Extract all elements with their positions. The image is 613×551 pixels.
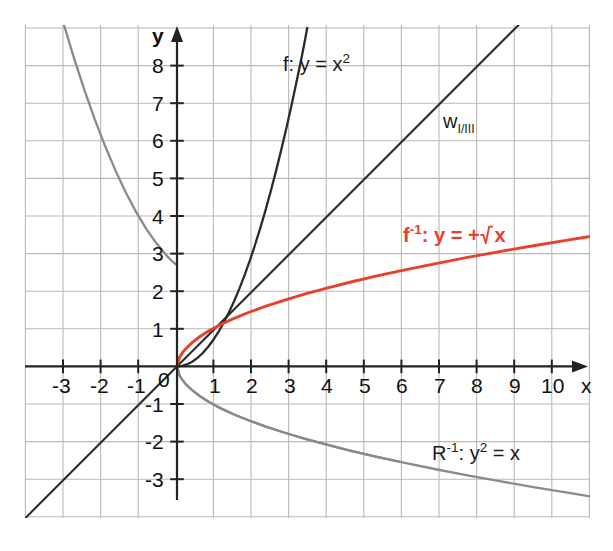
x-tick-label-10: 10	[541, 374, 564, 398]
graph-canvas	[0, 0, 613, 551]
origin-label: 0	[158, 368, 170, 392]
label-parabola: f: y = x2	[283, 51, 350, 76]
x-axis-arrow	[572, 360, 588, 372]
label-bisector-base: w	[443, 110, 457, 132]
label-parabola-text: f: y = x	[283, 53, 342, 75]
curve-sqrt	[177, 237, 590, 367]
y-tick-label-4: 4	[152, 205, 164, 229]
x-tick-label--2: -2	[90, 374, 109, 398]
x-tick-label--1: -1	[127, 374, 146, 398]
label-relation: R-1: y2 = x	[432, 440, 520, 465]
x-tick-label-8: 8	[471, 374, 483, 398]
label-relation-rest: = x	[487, 442, 520, 464]
y-axis-label: y	[152, 24, 164, 48]
x-tick-label-4: 4	[321, 374, 333, 398]
x-tick-label--3: -3	[52, 374, 71, 398]
label-relation-mid: : y	[459, 442, 480, 464]
label-sqrt-rest: : y = +	[422, 224, 480, 246]
y-tick-label--3: -3	[145, 468, 164, 492]
y-tick-label--2: -2	[145, 430, 164, 454]
x-tick-label-7: 7	[434, 374, 446, 398]
y-tick-label-1: 1	[152, 318, 164, 342]
x-tick-label-2: 2	[246, 374, 258, 398]
label-sqrt: f-1: y = + x	[403, 222, 506, 247]
y-tick-label-7: 7	[152, 92, 164, 116]
sqrt-radical-icon	[480, 224, 495, 247]
label-relation-exponent: -1	[446, 440, 458, 455]
axes	[25, 36, 578, 500]
x-tick-label-9: 9	[509, 374, 521, 398]
curve-sqrt-negative-branch	[177, 366, 590, 496]
y-tick-label-2: 2	[152, 280, 164, 304]
y-tick-label-8: 8	[152, 54, 164, 78]
y-tick-label--1: -1	[145, 393, 164, 417]
x-tick-label-1: 1	[209, 374, 221, 398]
label-bisector-subscript: I/III	[457, 122, 474, 136]
label-bisector: wI/III	[443, 110, 475, 136]
x-tick-label-3: 3	[284, 374, 296, 398]
label-sqrt-exponent: -1	[410, 222, 422, 237]
x-tick-label-5: 5	[359, 374, 371, 398]
label-parabola-exponent: 2	[342, 51, 350, 66]
y-tick-label-3: 3	[152, 242, 164, 266]
y-tick-label-6: 6	[152, 129, 164, 153]
label-relation-base: R	[432, 442, 446, 464]
x-axis-label: x	[581, 374, 592, 398]
y-tick-label-5: 5	[152, 167, 164, 191]
radical-sign-icon	[480, 225, 493, 244]
label-sqrt-base: f	[403, 224, 410, 246]
x-tick-label-6: 6	[396, 374, 408, 398]
function-graph-figure: -3 -2 -1 1 2 3 4 5 6 7 8 9 10 8 7 6 5 4 …	[0, 0, 613, 551]
label-sqrt-radicand: x	[495, 224, 506, 246]
